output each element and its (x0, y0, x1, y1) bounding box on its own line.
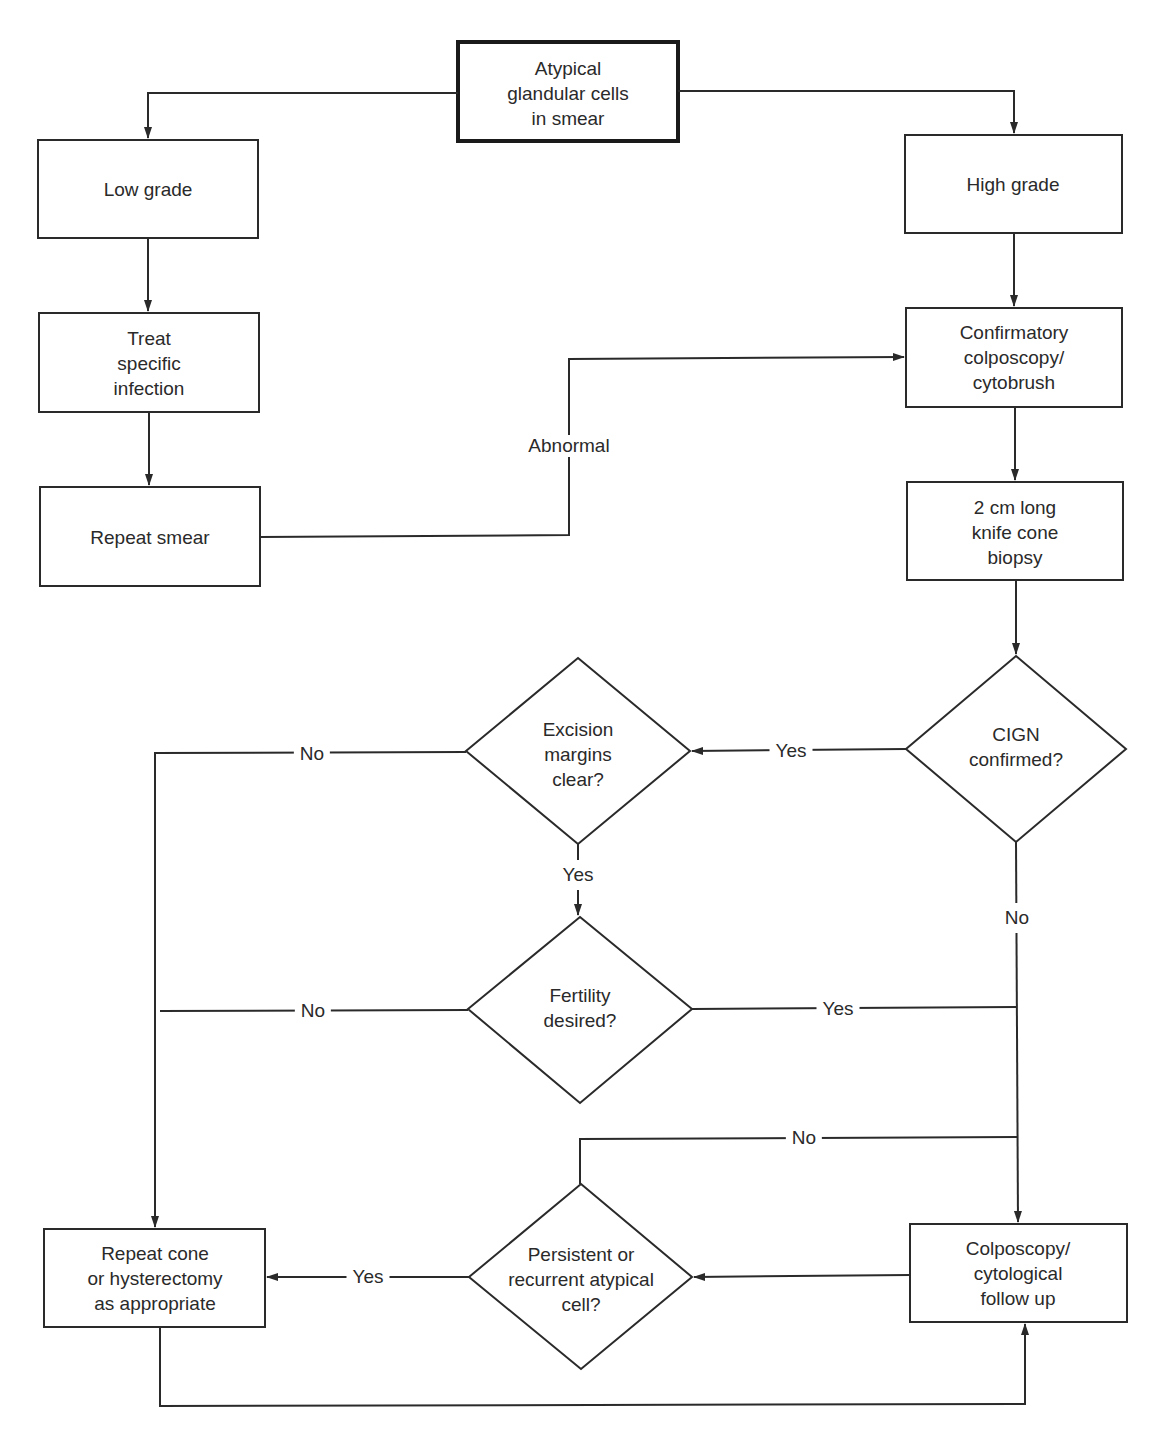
node-cone-biopsy: 2 cm long knife cone biopsy (972, 495, 1059, 570)
edge-label-fertility-yes: Yes (817, 998, 860, 1020)
node-followup: Colposcopy/ cytological follow up (966, 1236, 1071, 1311)
edge-label-fertility-no: No (295, 1000, 331, 1022)
edge-label-persistent-yes: Yes (347, 1266, 390, 1288)
node-persistent: Persistent or recurrent atypical cell? (508, 1242, 654, 1317)
edge-label-margins-yes: Yes (563, 860, 594, 890)
node-fertility: Fertility desired? (544, 983, 617, 1033)
edge-label-margins-no: No (294, 743, 330, 765)
node-start: Atypical glandular cells in smear (507, 56, 628, 131)
node-repeat-cone: Repeat cone or hysterectomy as appropria… (87, 1241, 222, 1316)
node-excision-margins: Excision margins clear? (543, 717, 614, 792)
node-confirmatory: Confirmatory colposcopy/ cytobrush (960, 320, 1069, 395)
node-cign-confirmed: CIGN confirmed? (969, 722, 1063, 772)
node-treat-infection: Treat specific infection (114, 326, 185, 401)
edge-label-followup-no: No (786, 1127, 822, 1149)
edge-label-cign-yes: Yes (770, 740, 813, 762)
node-low-grade: Low grade (104, 177, 193, 202)
edge-label-cign-no: No (1005, 903, 1029, 933)
node-repeat-smear: Repeat smear (90, 525, 209, 550)
edge-label-abnormal: Abnormal (522, 435, 615, 457)
node-high-grade: High grade (967, 172, 1060, 197)
